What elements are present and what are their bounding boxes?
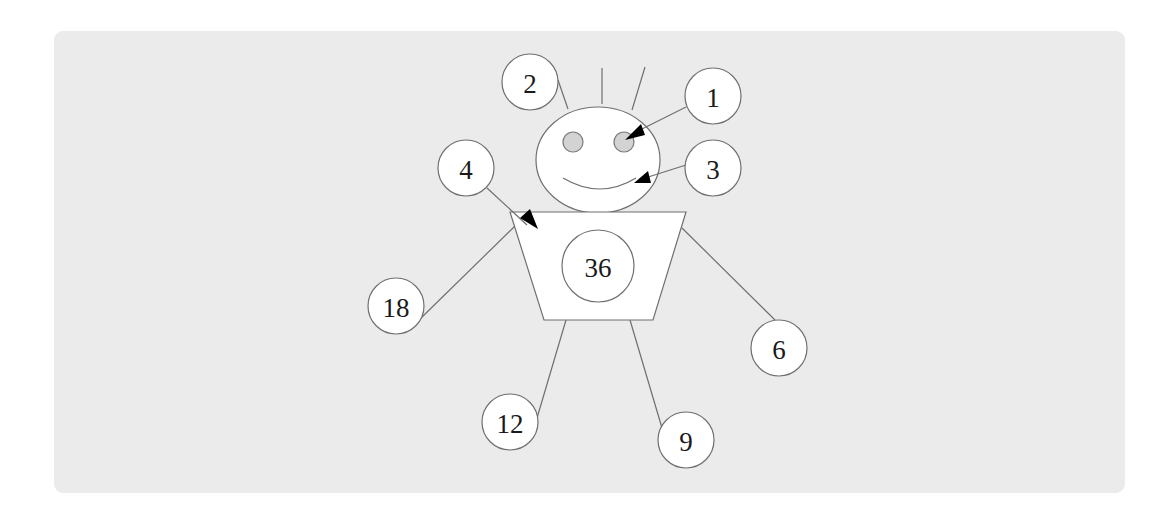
- svg-text:9: 9: [679, 427, 693, 457]
- svg-text:12: 12: [497, 409, 524, 439]
- callout-right-arm: 6: [751, 320, 807, 376]
- callout-hair: 2: [502, 54, 558, 110]
- svg-text:2: 2: [523, 69, 537, 99]
- callout-right-leg: 9: [658, 412, 714, 468]
- callout-mouth: 3: [685, 140, 741, 196]
- callout-left-leg: 12: [482, 394, 538, 450]
- left-eye: [563, 132, 583, 152]
- head: [536, 107, 660, 213]
- svg-text:18: 18: [383, 293, 410, 323]
- callout-body: 4: [438, 140, 494, 196]
- stick-figure-diagram: 36 2 1 3 4 18 6 12 9: [0, 0, 1155, 525]
- svg-text:6: 6: [772, 335, 786, 365]
- center-label: 36: [585, 253, 612, 283]
- svg-text:4: 4: [459, 155, 473, 185]
- svg-text:3: 3: [706, 155, 720, 185]
- callout-eye: 1: [685, 68, 741, 124]
- svg-text:1: 1: [706, 83, 720, 113]
- callout-left-arm: 18: [368, 278, 424, 334]
